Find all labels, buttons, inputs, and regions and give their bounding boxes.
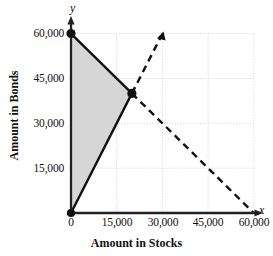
y-axis-variable-label: y <box>70 1 75 16</box>
y-axis-title: Amount in Bonds <box>7 56 22 176</box>
dashed-direction-arrow-shaft <box>132 38 161 94</box>
grid-vertical <box>117 34 254 213</box>
y-tick-label-60000: 60,000 <box>0 27 64 39</box>
x-axis-variable-label: x <box>259 203 264 218</box>
dashed-objective-line <box>132 93 254 213</box>
point-y-intercept <box>66 29 75 38</box>
x-axis-title: Amount in Stocks <box>0 236 273 251</box>
point-intersection <box>127 89 136 98</box>
feasible-region-shading <box>71 34 132 213</box>
x-tick-label-0: 0 <box>58 216 84 228</box>
x-tick-label-60000: 60,000 <box>226 216 273 228</box>
chart-figure: 60,000 45,000 30,000 15,000 0 15,000 30,… <box>0 0 273 256</box>
y-axis-arrowhead <box>67 16 74 25</box>
